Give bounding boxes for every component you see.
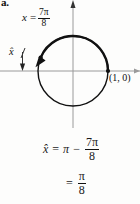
- unit-circle-diagram: [0, 0, 140, 128]
- derivation-equals-2: =: [66, 176, 73, 191]
- reference-angle-arrowhead-icon: [20, 64, 25, 72]
- figure-page: a. x=7π8 x̂ (1, 0) x̂ =: [0, 0, 140, 204]
- derivation-block: x̂ = π − 7π 8 = π 8: [0, 132, 140, 200]
- angle-fraction-denominator: 8: [38, 19, 50, 29]
- vertical-axis-arrow-icon: [71, 0, 76, 8]
- derivation-line-2: = π 8: [0, 166, 140, 200]
- swept-arc: [41, 36, 108, 71]
- angle-variable: x: [22, 11, 27, 23]
- derivation-lhs: x̂: [43, 142, 48, 157]
- derivation-fraction-1-denominator: 8: [85, 150, 99, 162]
- derivation-term-pi: π: [63, 142, 69, 157]
- derivation-fraction-2-denominator: 8: [78, 184, 86, 196]
- derivation-equals-1: =: [52, 142, 59, 157]
- reference-angle-label: x̂: [9, 46, 14, 57]
- derivation-minus-operator: −: [73, 142, 80, 157]
- derivation-fraction-1-numerator: 7π: [85, 136, 99, 149]
- terminal-point: [39, 56, 43, 60]
- derivation-fraction-2: π 8: [78, 170, 86, 195]
- derivation-fraction-2-numerator: π: [78, 170, 86, 183]
- angle-fraction: 7π8: [38, 8, 50, 28]
- angle-equals-sign: =: [30, 11, 36, 23]
- angle-value-label: x=7π8: [22, 8, 50, 28]
- derivation-line-1: x̂ = π − 7π 8: [0, 132, 140, 166]
- horizontal-axis-arrow-icon: [134, 69, 140, 74]
- initial-point-label: (1, 0): [109, 72, 131, 83]
- derivation-fraction-1: 7π 8: [85, 136, 99, 161]
